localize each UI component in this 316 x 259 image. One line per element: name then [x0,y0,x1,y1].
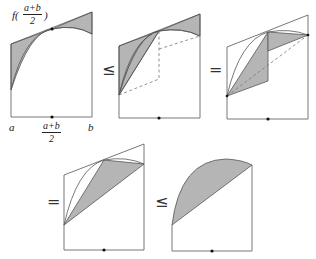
f-argument-fraction: a+b 2 [23,3,42,26]
fraction-numerator: a+b [42,121,61,133]
label-a: a [9,122,15,133]
relation-eq-1: = [209,62,222,78]
panel-3 [226,15,310,121]
fraction-denominator: 2 [23,15,42,26]
panel-4 [64,144,144,252]
midpoint-label: a+b 2 [42,121,61,144]
panel-1 [11,12,92,119]
f-label: f( [12,10,19,21]
relation-leq-2: ≤ [155,194,168,210]
f-label-close: ) [44,10,48,21]
fraction-denominator: 2 [42,133,61,144]
relation-leq-1: ≤ [102,62,115,78]
label-b: b [88,122,94,133]
relation-eq-2: = [47,194,60,210]
panel-2 [119,14,200,120]
panel-5 [172,159,252,253]
fraction-numerator: a+b [23,3,42,15]
